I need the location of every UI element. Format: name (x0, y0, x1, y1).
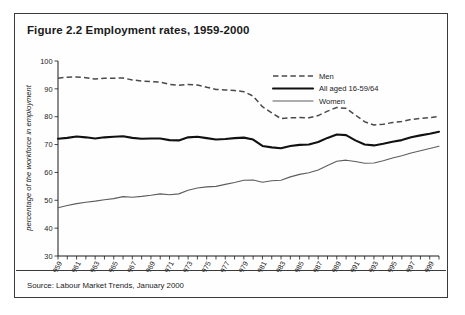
legend-label-1: All aged 16-59/64 (319, 84, 379, 93)
series-line-2 (58, 146, 439, 208)
y-tick-label: 30 (44, 252, 52, 261)
y-tick-label: 50 (44, 196, 52, 205)
y-axis-title: percentage of the workforce in employmen… (24, 84, 33, 232)
legend-label-2: Women (319, 97, 345, 106)
y-tick-label: 70 (44, 140, 52, 149)
chart-plot-area: percentage of the workforce in employmen… (15, 40, 449, 272)
employment-rates-line-chart: percentage of the workforce in employmen… (15, 40, 449, 272)
legend-label-0: Men (319, 72, 334, 81)
figure-container: Figure 2.2 Employment rates, 1959-2000 p… (14, 13, 448, 298)
y-axis-title-label: percentage of the workforce in employmen… (24, 84, 33, 232)
chart-legend: MenAll aged 16-59/64Women (273, 72, 379, 106)
data-series-group (58, 77, 439, 208)
y-tick-label: 40 (44, 224, 52, 233)
source-divider (16, 270, 446, 271)
figure-title: Figure 2.2 Employment rates, 1959-2000 (27, 24, 249, 36)
y-tick-label: 100 (40, 57, 52, 66)
source-note: Source: Labour Market Trends, January 20… (27, 281, 184, 290)
y-axis-ticks: 30405060708090100 (40, 57, 58, 261)
y-tick-label: 60 (44, 168, 52, 177)
y-tick-label: 80 (44, 112, 52, 121)
series-line-1 (58, 132, 439, 148)
y-tick-label: 90 (44, 85, 52, 94)
series-line-0 (58, 77, 439, 125)
